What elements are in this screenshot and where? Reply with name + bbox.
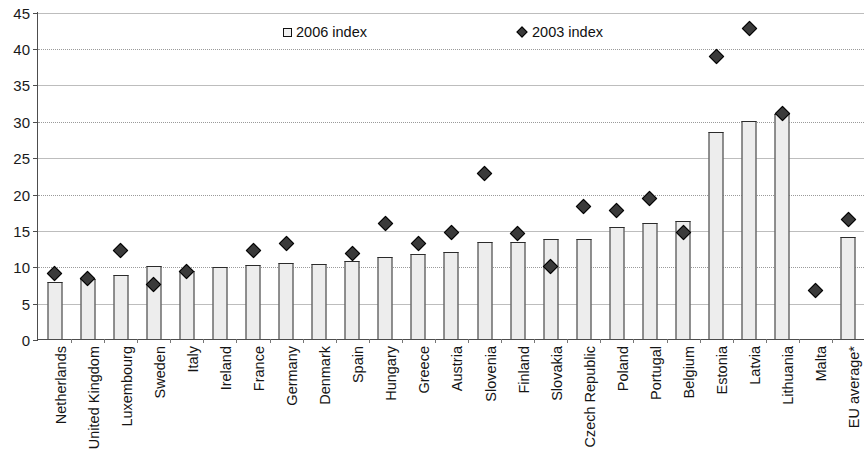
x-label-text: Slovenia [484, 346, 499, 402]
x-label-text: Lithuania [781, 346, 796, 405]
x-label-slot: Finland [500, 346, 533, 462]
x-label-slot: Slovenia [467, 346, 500, 462]
x-label-text: Denmark [318, 346, 333, 405]
x-label-text: EU average* [847, 346, 862, 428]
x-tick-mark [369, 339, 370, 343]
y-tick-label-25: 25 [0, 151, 30, 166]
x-label-slot: United Kingdom [70, 346, 103, 462]
y-tick-label-40: 40 [0, 42, 30, 57]
x-label-text: Greece [417, 346, 432, 394]
x-label-slot: Poland [599, 346, 632, 462]
y-tick-label-0: 0 [0, 333, 30, 348]
x-label-slot: Italy [169, 346, 202, 462]
y-tick-label-30: 30 [0, 115, 30, 130]
x-label-slot: Portugal [632, 346, 665, 462]
x-tick-mark [435, 339, 436, 343]
x-tick-mark [402, 339, 403, 343]
x-label-text: Malta [814, 346, 829, 381]
x-label-text: Ireland [219, 346, 234, 390]
x-label-text: Sweden [153, 346, 168, 398]
x-tick-mark [203, 339, 204, 343]
x-label-slot: Hungary [368, 346, 401, 462]
x-tick-mark [336, 339, 337, 343]
chart-container: 051015202530354045 NetherlandsUnited Kin… [0, 0, 864, 462]
x-tick-mark [667, 339, 668, 343]
legend-diamond-icon [516, 26, 527, 37]
x-tick-mark [733, 339, 734, 343]
x-label-slot: Czech Republic [566, 346, 599, 462]
x-label-text: United Kingdom [87, 346, 102, 449]
x-label-slot: Lithuania [765, 346, 798, 462]
y-tick-mark-0 [33, 340, 38, 341]
x-axis-ticks [38, 12, 864, 339]
x-label-text: Belgium [682, 346, 697, 398]
plot-area [37, 12, 864, 340]
x-label-text: Finland [517, 346, 532, 394]
x-label-text: Spain [351, 346, 366, 383]
x-tick-mark [832, 339, 833, 343]
x-label-text: Germany [285, 346, 300, 406]
x-label-text: Poland [616, 346, 631, 391]
x-tick-mark [600, 339, 601, 343]
y-tick-label-10: 10 [0, 260, 30, 275]
y-tick-label-5: 5 [0, 297, 30, 312]
x-label-slot: Luxembourg [103, 346, 136, 462]
x-tick-mark [700, 339, 701, 343]
x-label-text: Austria [450, 346, 465, 391]
x-label-text: Netherlands [54, 346, 69, 424]
x-label-slot: Sweden [136, 346, 169, 462]
x-tick-mark [270, 339, 271, 343]
x-label-slot: Ireland [202, 346, 235, 462]
y-tick-label-45: 45 [0, 6, 30, 21]
x-tick-mark [170, 339, 171, 343]
x-tick-mark [303, 339, 304, 343]
x-tick-mark [766, 339, 767, 343]
x-tick-mark [567, 339, 568, 343]
x-tick-mark [633, 339, 634, 343]
x-label-slot: Spain [335, 346, 368, 462]
x-tick-mark [468, 339, 469, 343]
legend-label-2003: 2003 index [532, 24, 603, 40]
x-tick-mark [137, 339, 138, 343]
x-label-text: France [252, 346, 267, 391]
x-label-slot: France [235, 346, 268, 462]
y-tick-label-20: 20 [0, 188, 30, 203]
x-label-slot: Netherlands [37, 346, 70, 462]
x-label-text: Slovakia [550, 346, 565, 401]
x-tick-mark [104, 339, 105, 343]
x-label-text: Portugal [649, 346, 664, 400]
x-label-slot: Greece [401, 346, 434, 462]
x-label-text: Czech Republic [583, 346, 598, 448]
x-label-slot: Denmark [302, 346, 335, 462]
x-label-text: Italy [186, 346, 201, 373]
x-tick-mark [534, 339, 535, 343]
legend-square-icon [283, 28, 292, 37]
y-tick-label-15: 15 [0, 224, 30, 239]
x-label-slot: EU average* [831, 346, 864, 462]
x-label-slot: Latvia [732, 346, 765, 462]
x-axis-labels: NetherlandsUnited KingdomLuxembourgSwede… [37, 346, 864, 462]
x-tick-mark [71, 339, 72, 343]
x-label-text: Hungary [384, 346, 399, 401]
y-tick-label-35: 35 [0, 78, 30, 93]
x-label-text: Luxembourg [120, 346, 135, 427]
legend-entry-2003: 2003 index [516, 24, 603, 40]
x-label-slot: Slovakia [533, 346, 566, 462]
x-label-slot: Malta [798, 346, 831, 462]
x-label-slot: Austria [434, 346, 467, 462]
x-tick-mark [501, 339, 502, 343]
legend-entry-2006: 2006 index [283, 24, 367, 40]
x-tick-mark [236, 339, 237, 343]
legend-label-2006: 2006 index [296, 24, 367, 40]
x-label-slot: Belgium [666, 346, 699, 462]
x-label-text: Latvia [748, 346, 763, 385]
x-label-slot: Estonia [699, 346, 732, 462]
x-tick-mark [799, 339, 800, 343]
x-label-slot: Germany [269, 346, 302, 462]
x-label-text: Estonia [715, 346, 730, 394]
